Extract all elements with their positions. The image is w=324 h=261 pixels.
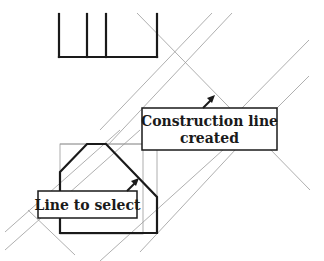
callout-text-line-1: Construction line — [141, 113, 278, 129]
callout-line-to-select: Line to select — [35, 178, 141, 218]
construction-line-nesw-4 — [277, 76, 309, 108]
arrow-icon — [203, 95, 215, 108]
cad-drawing-canvas: Construction line created Line to select — [0, 0, 324, 261]
arrow-icon — [127, 178, 139, 191]
top-bracket-geometry — [59, 14, 157, 57]
callout-text: Line to select — [35, 197, 141, 213]
construction-line-nesw-3 — [242, 40, 309, 108]
callout-text-line-2: created — [180, 130, 239, 146]
construction-rectangle — [60, 144, 143, 234]
callout-construction-line-created: Construction line created — [141, 95, 278, 150]
construction-line-nesw-6 — [140, 149, 236, 252]
